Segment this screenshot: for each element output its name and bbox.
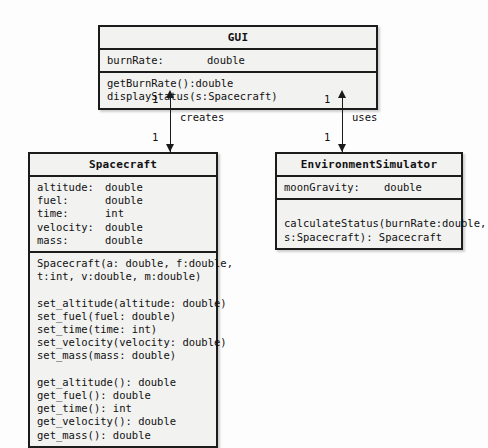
class-box-environment-simulator[interactable]: EnvironmentSimulator moonGravity: double… [275,152,463,250]
constructor-line: Spacecraft(a: double, f:double, [37,257,210,270]
attribute-type: int [105,207,124,220]
methods-compartment-environment-simulator: calculateStatus(burnRate:double, s:Space… [277,200,461,248]
class-box-spacecraft[interactable]: Spacecraft altitude: double fuel: double… [28,152,218,448]
attribute-type: double [105,181,143,194]
class-name-spacecraft: Spacecraft [30,154,216,177]
class-name-environment-simulator: EnvironmentSimulator [277,154,461,177]
attribute-name: mass: [37,234,105,247]
arrowhead-down-icon [338,144,346,152]
method-line: calculateStatus(burnRate:double, [284,217,455,230]
relationship-label-uses: uses [352,111,377,123]
methods-compartment-spacecraft: Spacecraft(a: double, f:double, t:int, v… [30,253,216,446]
class-box-gui[interactable]: GUI burnRate: double getBurnRate():doubl… [98,25,378,110]
multiplicity-uses-target: 1 [324,131,330,143]
method-line: set_fuel(fuel: double) [37,310,210,323]
arrowhead-down-icon [166,144,174,152]
method-line: get_mass(): double [37,429,210,442]
method-line: set_velocity(velocity: double) [37,336,210,349]
attribute-name: time: [37,207,105,220]
method-line: get_time(): int [37,402,210,415]
attributes-compartment-environment-simulator: moonGravity: double [277,177,461,200]
attribute-row: burnRate: double [107,54,370,67]
attribute-name: burnRate: [107,54,207,67]
method-line: displayStatus(s:Spacecraft) [107,90,370,103]
multiplicity-creates-source: 1 [152,93,158,105]
attribute-row: fuel: double [37,194,210,207]
attribute-row: moonGravity: double [284,181,455,194]
method-line: get_velocity(): double [37,415,210,428]
class-name-gui: GUI [100,27,376,50]
attribute-name: fuel: [37,194,105,207]
method-line: get_fuel(): double [37,389,210,402]
method-line: get_altitude(): double [37,376,210,389]
method-line: set_time(time: int) [37,323,210,336]
attribute-name: altitude: [37,181,105,194]
spacer [37,363,210,376]
attribute-type: double [105,234,143,247]
attribute-name: moonGravity: [284,181,384,194]
method-line: set_mass(mass: double) [37,349,210,362]
spacer [37,283,210,296]
attribute-row: mass: double [37,234,210,247]
constructor-line: t:int, v:double, m:double) [37,270,210,283]
multiplicity-creates-target: 1 [152,131,158,143]
methods-compartment-gui: getBurnRate():double displayStatus(s:Spa… [100,73,376,107]
attribute-name: velocity: [37,221,105,234]
method-line: s:Spacecraft): Spacecraft [284,231,455,244]
multiplicity-uses-source: 1 [324,93,330,105]
attribute-type: double [105,221,143,234]
attributes-compartment-spacecraft: altitude: double fuel: double time: int … [30,177,216,253]
attribute-type: double [384,181,422,194]
spacer [284,204,455,217]
attribute-row: velocity: double [37,221,210,234]
relationship-label-creates: creates [180,111,224,123]
method-line: getBurnRate():double [107,77,370,90]
method-line: set_altitude(altitude: double) [37,297,210,310]
attributes-compartment-gui: burnRate: double [100,50,376,73]
attribute-row: time: int [37,207,210,220]
attribute-type: double [105,194,143,207]
attribute-row: altitude: double [37,181,210,194]
attribute-type: double [207,54,245,67]
